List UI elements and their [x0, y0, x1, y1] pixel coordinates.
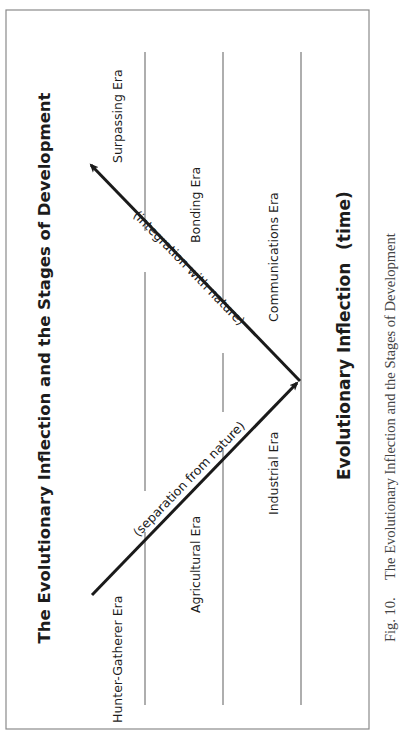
era-label-agricultural: Agricultural Era — [188, 516, 203, 613]
figure-caption-text: The Evolutionary Inflection and the Stag… — [382, 233, 398, 580]
era-label-hunter-gatherer: Hunter-Gatherer Era — [110, 596, 125, 723]
evolutionary-inflection-diagram: The Evolutionary Inflection and the Stag… — [0, 0, 408, 731]
era-label-surpassing: Surpassing Era — [110, 69, 125, 163]
era-label-communications: Communications Era — [266, 192, 281, 322]
footer-axis-label: Evolutionary Inflection (time) — [334, 191, 354, 480]
footer-inflection-label: Evolutionary Inflection — [334, 263, 354, 480]
era-label-bonding: Bonding Era — [188, 167, 203, 243]
era-dividers — [145, 52, 301, 705]
era-label-industrial: Industrial Era — [266, 432, 281, 515]
footer-time-label: (time) — [334, 191, 354, 250]
diagram-title: The Evolutionary Inflection and the Stag… — [35, 92, 54, 643]
figure-frame — [6, 10, 369, 729]
figure-caption-number: Fig. 10. — [382, 597, 398, 642]
